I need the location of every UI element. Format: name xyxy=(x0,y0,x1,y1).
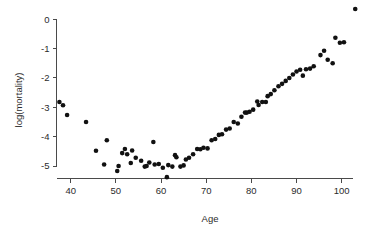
data-point xyxy=(133,155,138,160)
y-tick-label: -4 xyxy=(41,131,49,142)
data-point xyxy=(325,57,330,62)
data-point xyxy=(298,67,303,72)
data-point xyxy=(338,40,343,45)
data-point xyxy=(152,162,157,167)
data-point xyxy=(353,7,358,12)
x-axis-title: Age xyxy=(202,213,219,224)
data-point xyxy=(147,160,152,165)
x-tick-label: 80 xyxy=(246,185,257,196)
data-point xyxy=(291,72,296,77)
data-point xyxy=(165,175,170,180)
data-point xyxy=(128,161,133,166)
data-point xyxy=(301,73,306,78)
data-point xyxy=(130,148,135,153)
y-tick-label: -1 xyxy=(41,43,49,54)
data-point xyxy=(65,113,70,118)
data-point xyxy=(116,164,121,169)
data-point xyxy=(191,152,196,157)
data-point xyxy=(105,138,110,143)
y-tick-label: -5 xyxy=(41,160,49,171)
data-point xyxy=(61,103,66,108)
data-point xyxy=(201,146,206,151)
data-point xyxy=(239,114,244,119)
data-point xyxy=(161,165,166,170)
data-point xyxy=(283,79,288,84)
plot-canvas: 0-1-2-3-4-5405060708090100 Age log(morta… xyxy=(0,0,366,239)
data-point xyxy=(333,35,338,40)
data-point xyxy=(268,92,273,97)
data-point xyxy=(120,151,125,156)
data-point xyxy=(213,137,218,142)
x-tick-label: 60 xyxy=(156,185,167,196)
data-point xyxy=(57,100,62,105)
data-point xyxy=(330,61,335,66)
data-point xyxy=(322,48,327,53)
data-point xyxy=(123,147,128,152)
data-point xyxy=(166,163,171,168)
data-point xyxy=(220,132,225,137)
data-point xyxy=(151,140,156,145)
data-point xyxy=(94,148,99,153)
data-point xyxy=(272,88,277,93)
x-tick-label: 40 xyxy=(65,185,76,196)
y-tick-label: 0 xyxy=(44,14,49,25)
y-tick-label: -3 xyxy=(41,102,49,113)
data-point xyxy=(287,76,292,81)
data-point xyxy=(174,155,179,160)
data-point xyxy=(231,120,236,125)
data-point xyxy=(227,126,232,131)
data-point xyxy=(187,155,192,160)
data-point xyxy=(139,158,144,163)
axes-group: 0-1-2-3-4-5405060708090100 xyxy=(41,14,353,196)
x-tick-label: 70 xyxy=(201,185,212,196)
data-point xyxy=(102,162,107,167)
x-tick-label: 50 xyxy=(111,185,122,196)
data-point xyxy=(280,82,285,87)
data-point xyxy=(84,120,89,125)
data-point xyxy=(205,146,210,151)
data-point xyxy=(156,162,161,167)
data-point xyxy=(236,121,241,126)
data-points-group xyxy=(57,7,357,180)
data-point xyxy=(256,103,261,108)
data-point xyxy=(115,169,120,174)
y-axis-title: log(mortality) xyxy=(13,73,24,128)
data-point xyxy=(251,107,256,112)
scatter-chart: 0-1-2-3-4-5405060708090100 Age log(morta… xyxy=(0,0,366,239)
x-tick-label: 100 xyxy=(334,185,350,196)
data-point xyxy=(304,67,309,72)
y-tick-label: -2 xyxy=(41,72,49,83)
data-point xyxy=(318,53,323,58)
data-point xyxy=(170,164,175,169)
x-tick-label: 90 xyxy=(291,185,302,196)
data-point xyxy=(181,163,186,168)
data-point xyxy=(342,40,347,45)
data-point xyxy=(264,100,269,105)
data-point xyxy=(125,152,130,157)
data-point xyxy=(311,64,316,69)
